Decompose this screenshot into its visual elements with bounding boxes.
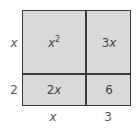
cell-x-squared: x2: [48, 37, 60, 49]
row-label-2: 2: [10, 84, 18, 96]
cell-2x: 2x: [47, 84, 62, 96]
area-grid: x2 3x 2x 6: [22, 10, 131, 106]
vertical-divider: [85, 11, 87, 105]
cell-3x: 3x: [102, 37, 117, 49]
column-label-x: x: [49, 111, 56, 123]
horizontal-divider: [23, 73, 130, 75]
row-label-x: x: [10, 37, 17, 49]
column-label-3: 3: [104, 111, 112, 123]
cell-6: 6: [105, 84, 113, 96]
